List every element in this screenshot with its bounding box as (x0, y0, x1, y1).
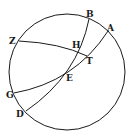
spherical-diagram: A B Z H T E G D (0, 0, 133, 137)
arc-BD (26, 19, 89, 111)
label-E: E (66, 73, 73, 83)
diagram-canvas: A B Z H T E G D (0, 0, 133, 137)
label-A: A (106, 23, 115, 33)
label-H: H (72, 40, 81, 50)
label-Z: Z (9, 36, 16, 46)
label-T: T (86, 56, 93, 66)
label-B: B (86, 9, 94, 19)
label-D: D (16, 109, 24, 119)
label-G: G (6, 90, 14, 100)
arc-AG (14, 31, 108, 93)
